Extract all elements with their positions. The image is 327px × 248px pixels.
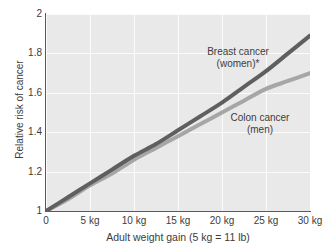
y-tick-label: 1	[0, 206, 42, 216]
x-tick-label: 10 kg	[122, 215, 146, 226]
annotation-breast-cancer: Breast cancer (women)*	[190, 46, 286, 69]
y-axis-title: Relative risk of cancer	[14, 20, 25, 200]
chart-container: 21.81.61.41.21 Relative risk of cancer A…	[0, 0, 327, 248]
x-tick-label: 5 kg	[81, 215, 100, 226]
annotation-colon-line1: Colon cancer	[212, 112, 308, 124]
x-tick-label: 20 kg	[210, 215, 234, 226]
line-colon-cancer	[46, 73, 310, 211]
annotation-colon-line2: (men)	[212, 124, 308, 136]
annotation-colon-cancer: Colon cancer (men)	[212, 112, 308, 135]
annotation-breast-line2: (women)*	[190, 58, 286, 70]
x-tick-label: 25 kg	[254, 215, 278, 226]
x-tick-label: 15 kg	[166, 215, 190, 226]
annotation-breast-line1: Breast cancer	[190, 46, 286, 58]
x-tick-label: 30 kg	[298, 215, 322, 226]
x-tick-label: 0	[43, 215, 49, 226]
y-axis-line	[45, 13, 46, 212]
x-axis-line	[45, 211, 311, 212]
y-tick-label: 2	[0, 9, 42, 19]
x-axis-title: Adult weight gain (5 kg = 11 lb)	[45, 231, 311, 243]
